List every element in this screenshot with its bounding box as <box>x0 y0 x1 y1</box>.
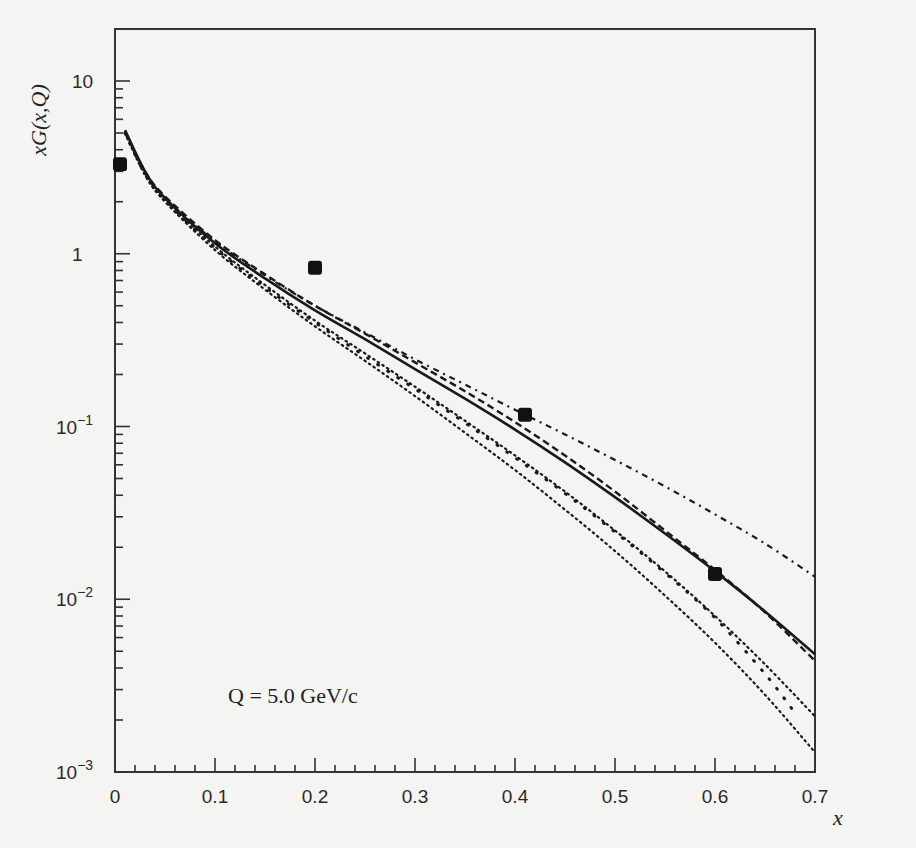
x-tick-label: 0.2 <box>302 786 328 807</box>
x-tick-label: 0.3 <box>402 786 428 807</box>
data-point-marker <box>308 261 322 275</box>
y-tick-label: 10 <box>72 71 93 92</box>
series-curves <box>125 130 815 752</box>
curve-dashed <box>125 132 815 661</box>
x-tick-label: 0.6 <box>702 786 728 807</box>
curve-sparse-dotted <box>125 133 795 713</box>
x-tick-label: 0.4 <box>502 786 529 807</box>
y-tick-label: 10−1 <box>56 412 93 438</box>
data-point-marker <box>518 408 532 422</box>
x-axis-title: x <box>832 805 843 830</box>
y-tick-label: 10−2 <box>56 584 93 610</box>
y-axis-title: xG(x,Q) <box>26 84 51 156</box>
y-tick-label: 1 <box>72 244 83 265</box>
q-annotation: Q = 5.0 GeV/c <box>228 683 358 708</box>
x-tick-label: 0.7 <box>802 786 828 807</box>
y-axis-tick-labels: 10110−110−210−3 <box>56 71 93 783</box>
x-axis-ticks <box>135 758 795 772</box>
x-axis-tick-labels: 00.10.20.30.40.50.60.7 <box>110 786 829 807</box>
plot-frame <box>115 29 815 772</box>
chart: 10110−110−210−3 00.10.20.30.40.50.60.7 x… <box>0 0 916 848</box>
y-axis-ticks <box>115 81 130 772</box>
x-tick-label: 0.5 <box>602 786 628 807</box>
curve-dash-dot <box>125 133 815 577</box>
curve-dotted-2 <box>125 133 815 752</box>
y-tick-label: 10−3 <box>56 757 93 783</box>
curve-dotted-1 <box>125 133 815 716</box>
x-tick-label: 0 <box>110 786 121 807</box>
x-tick-label: 0.1 <box>202 786 228 807</box>
data-point-marker <box>113 157 127 171</box>
data-point-marker <box>708 567 722 581</box>
